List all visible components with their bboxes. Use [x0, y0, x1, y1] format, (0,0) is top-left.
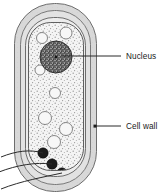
cell-diagram-figure: Nucleus Cell wall — [0, 0, 164, 196]
nucleolus — [55, 56, 58, 59]
vacuole — [39, 112, 52, 125]
cell-diagram-canvas: Nucleus Cell wall — [0, 0, 164, 196]
callout-cell-wall: Cell wall — [94, 122, 158, 131]
vacuole — [37, 33, 48, 44]
cell-wall-label: Cell wall — [126, 122, 157, 131]
cell-wall-leader-tip — [94, 125, 97, 128]
vacuole — [48, 136, 61, 149]
vacuole — [60, 123, 73, 136]
vacuole — [60, 27, 72, 39]
nucleus-label: Nucleus — [126, 52, 156, 61]
vacuole — [50, 88, 61, 99]
